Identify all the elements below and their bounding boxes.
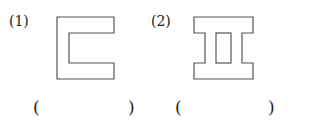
- answer-2-open: (: [175, 97, 182, 117]
- answer-1-close: ): [128, 97, 135, 117]
- answer-2-close: ): [268, 97, 275, 117]
- answer-2-blank[interactable]: [187, 97, 267, 117]
- shape-1-c: [57, 17, 114, 79]
- answer-1-open: (: [33, 97, 40, 117]
- answer-1-blank[interactable]: [45, 97, 125, 117]
- shape-2-inner-slot: [216, 33, 231, 63]
- shape-2-outline: [194, 17, 253, 79]
